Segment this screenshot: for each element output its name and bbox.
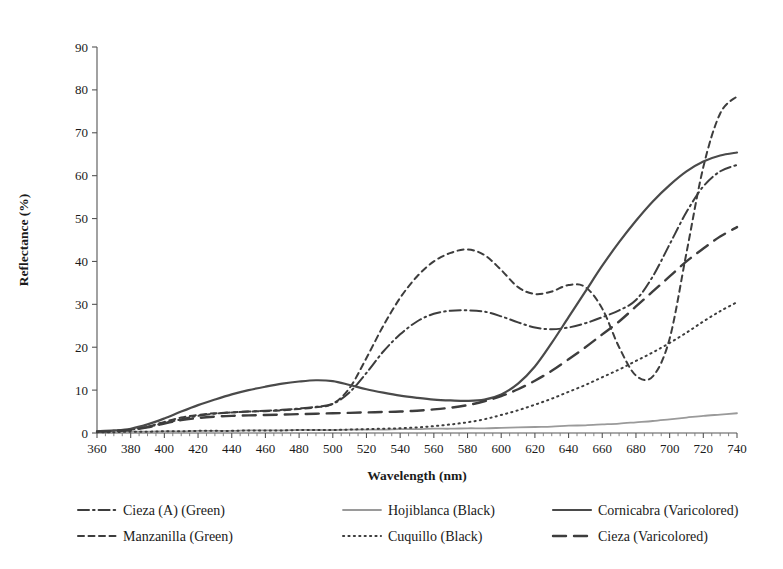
y-tick-label: 60: [75, 168, 88, 183]
legend-label-1-2[interactable]: Cieza (Varicolored): [598, 529, 708, 545]
x-tick-label: 580: [458, 441, 478, 456]
y-tick-label: 30: [75, 297, 88, 312]
chart-canvas: 0102030405060708090360380400420440460480…: [0, 0, 783, 569]
x-tick-label: 560: [424, 441, 444, 456]
chart-legend: Cieza (A) (Green)Hojiblanca (Black)Corni…: [78, 503, 739, 545]
y-tick-label: 40: [75, 254, 88, 269]
y-tick-label: 0: [82, 426, 89, 441]
legend-label-0-0[interactable]: Cieza (A) (Green): [123, 503, 225, 519]
x-tick-label: 600: [491, 441, 511, 456]
y-tick-label: 20: [75, 340, 88, 355]
x-tick-label: 440: [222, 441, 242, 456]
x-tick-label: 640: [559, 441, 579, 456]
legend-label-0-2[interactable]: Cornicabra (Varicolored): [598, 503, 739, 519]
x-tick-label: 680: [626, 441, 646, 456]
y-tick-label: 80: [75, 82, 88, 97]
x-tick-label: 540: [390, 441, 410, 456]
x-tick-label: 620: [525, 441, 545, 456]
legend-label-0-1[interactable]: Hojiblanca (Black): [388, 503, 495, 519]
y-tick-label: 50: [75, 211, 88, 226]
x-tick-label: 460: [256, 441, 276, 456]
data-series: [97, 96, 737, 432]
x-tick-label: 420: [188, 441, 208, 456]
y-axis-title: Reflectance (%): [16, 194, 31, 287]
series-line-0: [97, 165, 737, 432]
x-tick-label: 740: [727, 441, 747, 456]
x-tick-label: 360: [87, 441, 107, 456]
legend-label-1-0[interactable]: Manzanilla (Green): [123, 529, 233, 545]
axes: 0102030405060708090360380400420440460480…: [75, 40, 747, 457]
series-line-1: [97, 96, 737, 431]
x-tick-label: 660: [593, 441, 613, 456]
x-tick-label: 720: [694, 441, 714, 456]
x-tick-label: 700: [660, 441, 680, 456]
y-tick-label: 70: [75, 125, 88, 140]
x-tick-label: 380: [121, 441, 141, 456]
x-tick-label: 400: [155, 441, 175, 456]
y-tick-label: 90: [75, 40, 88, 55]
reflectance-spectra-figure: 0102030405060708090360380400420440460480…: [0, 0, 783, 569]
x-tick-label: 520: [357, 441, 377, 456]
x-tick-label: 500: [323, 441, 343, 456]
series-line-5: [97, 227, 737, 432]
series-line-4: [97, 153, 737, 432]
x-axis-title: Wavelength (nm): [367, 468, 466, 483]
x-tick-label: 480: [289, 441, 309, 456]
legend-label-1-1[interactable]: Cuquillo (Black): [388, 529, 483, 545]
y-tick-label: 10: [75, 383, 88, 398]
